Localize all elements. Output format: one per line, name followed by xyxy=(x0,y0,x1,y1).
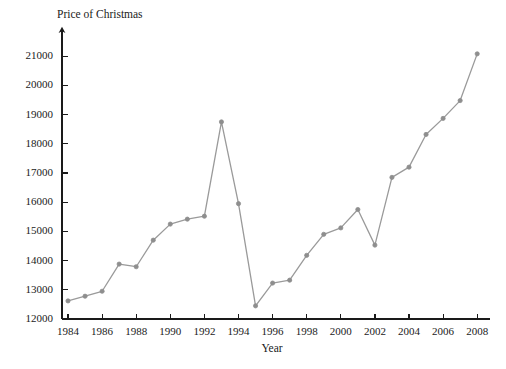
x-tick-label: 2000 xyxy=(330,325,353,337)
x-tick-label: 2008 xyxy=(466,325,489,337)
data-point-marker xyxy=(100,289,104,293)
y-tick-label: 15000 xyxy=(26,224,54,236)
data-point-marker xyxy=(339,226,343,230)
x-tick-label: 2004 xyxy=(398,325,421,337)
data-point-marker xyxy=(390,175,394,179)
y-tick-label: 19000 xyxy=(26,108,54,120)
y-axis-title: Price of Christmas xyxy=(57,8,143,20)
line-chart: 1200013000140001500016000170001800019000… xyxy=(0,0,506,369)
x-axis-title: Year xyxy=(261,342,282,354)
y-tick-label: 21000 xyxy=(26,49,54,61)
series-line xyxy=(68,54,477,306)
data-point-marker xyxy=(253,304,257,308)
data-point-marker xyxy=(458,98,462,102)
data-point-marker xyxy=(271,281,275,285)
data-point-marker xyxy=(373,243,377,247)
data-point-marker xyxy=(288,278,292,282)
y-tick-label: 14000 xyxy=(26,254,54,266)
data-series-price-of-christmas xyxy=(68,54,477,306)
x-tick-label: 2002 xyxy=(364,325,386,337)
data-point-marker xyxy=(322,232,326,236)
data-point-marker xyxy=(424,132,428,136)
y-tick-label: 20000 xyxy=(26,78,54,90)
data-point-marker xyxy=(441,116,445,120)
x-tick-label: 1996 xyxy=(262,325,285,337)
x-tick-labels: 1984198619881990199219941996199820002002… xyxy=(57,314,489,337)
y-tick-label: 17000 xyxy=(26,166,54,178)
x-tick-label: 1994 xyxy=(228,325,251,337)
data-point-marker xyxy=(219,120,223,124)
data-point-marker xyxy=(151,238,155,242)
data-point-markers xyxy=(66,52,479,308)
x-tick-label: 1990 xyxy=(159,325,182,337)
y-tick-label: 16000 xyxy=(26,195,54,207)
data-point-marker xyxy=(305,253,309,257)
chart-figure: 1200013000140001500016000170001800019000… xyxy=(0,0,506,369)
x-tick-label: 1988 xyxy=(125,325,148,337)
data-point-marker xyxy=(236,202,240,206)
data-point-marker xyxy=(356,207,360,211)
data-point-marker xyxy=(407,165,411,169)
x-tick-label: 1984 xyxy=(57,325,80,337)
y-tick-label: 18000 xyxy=(26,137,54,149)
x-tick-label: 1998 xyxy=(296,325,319,337)
y-tick-label: 13000 xyxy=(26,283,54,295)
data-point-marker xyxy=(83,294,87,298)
x-tick-label: 1992 xyxy=(193,325,215,337)
data-point-marker xyxy=(202,214,206,218)
y-tick-label: 12000 xyxy=(26,312,54,324)
data-point-marker xyxy=(168,222,172,226)
x-tick-label: 1986 xyxy=(91,325,114,337)
x-tick-label: 2006 xyxy=(432,325,455,337)
data-point-marker xyxy=(66,299,70,303)
data-point-marker xyxy=(185,217,189,221)
data-point-marker xyxy=(134,265,138,269)
data-point-marker xyxy=(475,52,479,56)
data-point-marker xyxy=(117,262,121,266)
